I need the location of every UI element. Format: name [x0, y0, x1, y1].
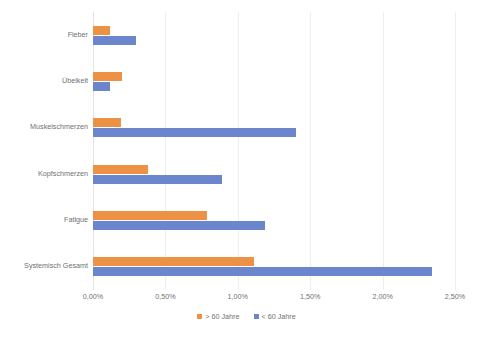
- bar-chart: FieberÜbelkeitMuskelschmerzenKopfschmerz…: [0, 0, 493, 338]
- legend-label: < 60 Jahre: [262, 312, 296, 321]
- category-label: Fatigue: [0, 216, 88, 223]
- gridline: [383, 12, 384, 290]
- bar-younger[interactable]: [93, 267, 432, 276]
- bar-group: Systemisch Gesamt: [93, 257, 455, 276]
- bar-group: Fieber: [93, 26, 455, 45]
- category-label: Übelkeit: [0, 77, 88, 84]
- bar-group: Fatigue: [93, 211, 455, 230]
- gridline: [238, 12, 239, 290]
- gridline: [165, 12, 166, 290]
- plot-area: FieberÜbelkeitMuskelschmerzenKopfschmerz…: [93, 12, 455, 290]
- chart-legend: > 60 Jahre< 60 Jahre: [0, 312, 493, 321]
- x-tick-label: 0,00%: [83, 292, 103, 301]
- bar-younger[interactable]: [93, 82, 110, 91]
- bar-younger[interactable]: [93, 221, 265, 230]
- bar-group: Muskelschmerzen: [93, 118, 455, 137]
- x-tick-label: 2,50%: [445, 292, 465, 301]
- x-axis: 0,00%0,50%1,00%1,50%2,00%2,50%: [93, 292, 455, 306]
- category-label: Fieber: [0, 31, 88, 38]
- legend-item[interactable]: > 60 Jahre: [197, 312, 239, 321]
- bar-older[interactable]: [93, 118, 121, 127]
- bar-older[interactable]: [93, 26, 110, 35]
- category-label: Systemisch Gesamt: [0, 262, 88, 269]
- legend-swatch-icon: [254, 314, 259, 319]
- x-tick-label: 1,00%: [228, 292, 248, 301]
- x-tick-label: 0,50%: [155, 292, 175, 301]
- legend-item[interactable]: < 60 Jahre: [254, 312, 296, 321]
- category-label: Kopfschmerzen: [0, 170, 88, 177]
- bar-younger[interactable]: [93, 36, 136, 45]
- bar-older[interactable]: [93, 257, 254, 266]
- bar-older[interactable]: [93, 211, 207, 220]
- x-tick-label: 2,00%: [372, 292, 392, 301]
- x-tick-label: 1,50%: [300, 292, 320, 301]
- bar-younger[interactable]: [93, 128, 296, 137]
- gridline: [310, 12, 311, 290]
- y-axis-line: [93, 12, 94, 290]
- bar-group: Übelkeit: [93, 72, 455, 91]
- bar-older[interactable]: [93, 72, 122, 81]
- bar-older[interactable]: [93, 165, 148, 174]
- category-label: Muskelschmerzen: [0, 123, 88, 130]
- legend-label: > 60 Jahre: [205, 312, 239, 321]
- bar-group: Kopfschmerzen: [93, 165, 455, 184]
- gridline: [455, 12, 456, 290]
- legend-swatch-icon: [197, 314, 202, 319]
- bar-younger[interactable]: [93, 175, 222, 184]
